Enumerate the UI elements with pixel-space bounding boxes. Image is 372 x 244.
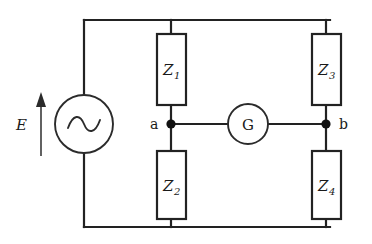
impedance-label-z4-base: Z xyxy=(317,177,329,195)
emf-label: E xyxy=(15,116,27,134)
impedance-label-z1-sub: 1 xyxy=(174,70,180,81)
galvanometer-label: G xyxy=(242,116,254,134)
impedance-label-z2-sub: 2 xyxy=(173,186,180,197)
impedance-label-z4-sub: 4 xyxy=(328,186,335,197)
ac-source-symbol xyxy=(55,95,113,153)
impedance-label-z2-base: Z xyxy=(162,177,174,195)
circuit-canvas: Z 1 Z 2 Z 3 Z 4 E G xyxy=(0,0,372,244)
node-label-b: b xyxy=(339,116,348,132)
impedance-label-z3-sub: 3 xyxy=(329,70,335,81)
node-label-a: a xyxy=(150,116,158,132)
emf-arrow-head-icon xyxy=(36,92,46,107)
node-dot-a xyxy=(166,119,175,128)
node-dot-b xyxy=(321,119,330,128)
impedance-label-z3-base: Z xyxy=(317,61,329,79)
galvanometer-symbol: G xyxy=(228,104,268,144)
impedance-label-z1-base: Z xyxy=(162,61,174,79)
circuit-diagram: Z 1 Z 2 Z 3 Z 4 E G xyxy=(0,0,372,244)
emf-indicator: E xyxy=(15,92,46,156)
